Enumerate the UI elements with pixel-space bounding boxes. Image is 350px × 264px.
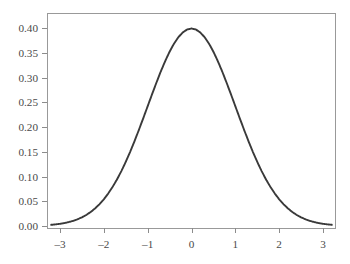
y-tick-label: 0.30	[18, 72, 38, 84]
y-tick-label: 0.25	[18, 96, 38, 108]
y-tick-label: 0.05	[18, 195, 38, 207]
y-tick-label: 0.15	[18, 146, 38, 158]
x-tick-label: 2	[276, 238, 282, 250]
y-tick-label: 0.35	[18, 47, 38, 59]
y-tick-label: 0.20	[18, 121, 38, 133]
x-tick-label: –2	[97, 238, 109, 250]
y-tick-label: 0.00	[18, 220, 38, 232]
y-tick-label: 0.40	[18, 22, 38, 34]
x-tick-label: 0	[189, 238, 195, 250]
y-tick-labels: 0.000.050.100.150.200.250.300.350.40	[18, 22, 38, 232]
x-tick-label: 1	[233, 238, 239, 250]
normal-distribution-plot: –3–2–10123 0.000.050.100.150.200.250.300…	[0, 0, 350, 264]
x-tick-label: –1	[141, 238, 153, 250]
y-tick-label: 0.10	[18, 171, 38, 183]
chart-screenshot: –3–2–10123 0.000.050.100.150.200.250.300…	[0, 0, 350, 264]
x-tick-label: 3	[320, 238, 326, 250]
x-tick-label: –3	[53, 238, 66, 250]
